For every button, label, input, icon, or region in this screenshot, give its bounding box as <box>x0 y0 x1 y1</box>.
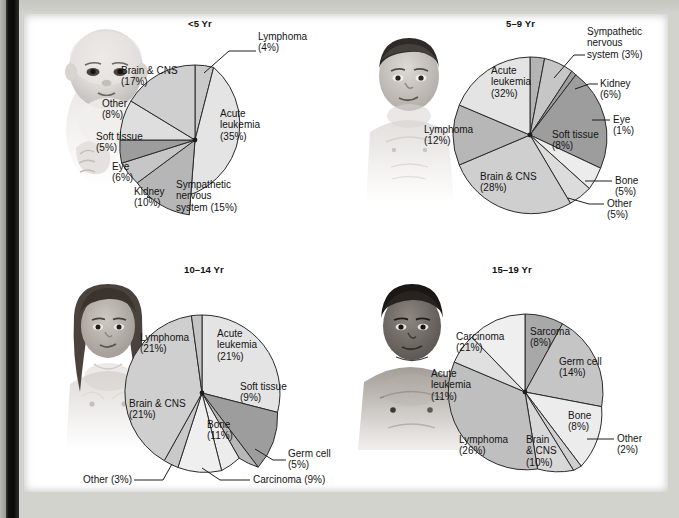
label-sarcoma: Sarcoma (8%) <box>530 326 570 349</box>
label-brain-cns: Brain & CNS (28%) <box>480 171 537 194</box>
label-kidney: Kidney (6%) <box>600 78 631 101</box>
label-brain-cns: Brain & CNS (17%) <box>121 65 178 88</box>
label-lymphoma: Lymphoma (26%) <box>459 434 508 457</box>
book-gutter-band <box>5 0 19 518</box>
label-sympathetic-nervous-system: Sympathetic nervous system (15%) <box>176 179 237 213</box>
label-bone: Bone (8%) <box>568 410 591 433</box>
label-lymphoma: Lymphoma (12%) <box>424 124 473 147</box>
label-acute-leukemia: Acute leukemia (32%) <box>491 65 531 99</box>
chart-panel-under-5: <5 Yr Lymphoma (4%) Acute leu <box>24 14 346 254</box>
label-lymphoma: Lymphoma (21%) <box>140 332 189 355</box>
label-bone: Bone (5%) <box>615 175 638 198</box>
chart-panel-10-14: 10–14 Yr Acute leukemia <box>24 258 346 492</box>
label-brain-cns: Brain & CNS (21%) <box>129 398 186 421</box>
label-brain-cns: Brain & CNS (10%) <box>526 434 557 468</box>
label-sympathetic-nervous-system: Sympathetic nervous system (3%) <box>587 26 643 60</box>
label-eye: Eye (1%) <box>613 114 634 137</box>
label-soft-tissue: Soft tissue (8%) <box>552 129 599 152</box>
label-germ-cell: Germ cell (14%) <box>559 356 602 379</box>
label-carcinoma: Carcinoma (21%) <box>456 331 504 354</box>
label-other: Other (2%) <box>617 433 642 456</box>
label-bone: Bone (11%) <box>207 419 233 442</box>
chart-panel-5-9: 5–9 Yr <box>346 14 668 254</box>
label-soft-tissue: Soft tissue (9%) <box>240 381 287 404</box>
label-acute-leukemia: Acute leukemia (21%) <box>217 328 257 362</box>
label-lymphoma: Lymphoma (4%) <box>258 31 307 54</box>
label-other: Other (8%) <box>102 98 127 121</box>
leader-other <box>134 464 172 480</box>
label-kidney: Kidney (10%) <box>134 186 165 209</box>
label-eye: Eye (6%) <box>112 161 133 184</box>
label-acute-leukemia: Acute leukemia (35%) <box>220 108 260 142</box>
page-edge-strip <box>0 0 6 518</box>
label-germ-cell: Germ cell (5%) <box>288 448 331 471</box>
pie-15-19[interactable] <box>346 258 668 492</box>
label-other: Other (3%) <box>62 474 132 485</box>
label-acute-leukemia: Acute leukemia (11%) <box>431 368 471 402</box>
chart-panel-15-19: 15–19 Yr Sarcoma (8%) Germ cell (14 <box>346 258 668 492</box>
label-soft-tissue: Soft tissue (5%) <box>96 131 143 154</box>
label-other: Other (5%) <box>607 198 632 221</box>
label-carcinoma: Carcinoma (9%) <box>253 474 325 485</box>
